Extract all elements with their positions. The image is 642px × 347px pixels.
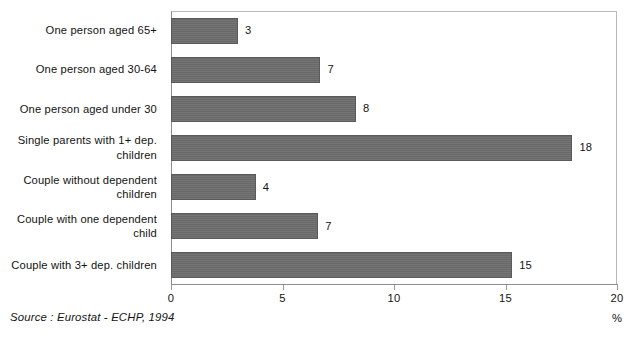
bar-value-label: 8: [363, 103, 369, 114]
category-label-one-person-aged-30-64: One person aged 30-64: [0, 50, 164, 89]
bar-row: 4: [171, 168, 617, 207]
bar-chart: One person aged 65+ One person aged 30-6…: [0, 0, 642, 347]
x-axis-tick: [394, 285, 395, 290]
x-axis-tick: [283, 285, 284, 290]
bar-one-person-aged-65-plus[interactable]: [171, 18, 238, 44]
category-axis-labels: One person aged 65+ One person aged 30-6…: [0, 11, 164, 285]
bar-one-person-aged-under-30[interactable]: [171, 96, 356, 122]
bar-row: 7: [171, 50, 617, 89]
x-axis-tick: [171, 285, 172, 290]
bar-row: 18: [171, 128, 617, 167]
bar-single-parents[interactable]: [171, 135, 572, 161]
bar-couple-with-3-plus-dep-children[interactable]: [171, 252, 512, 278]
category-label-single-parents: Single parents with 1+ dep. children: [0, 128, 164, 167]
bar-one-person-aged-30-64[interactable]: [171, 57, 320, 83]
bar-value-label: 18: [579, 142, 592, 153]
x-axis-tick-label: 0: [168, 292, 174, 304]
category-label-couple-with-3-plus-dep-children: Couple with 3+ dep. children: [0, 246, 164, 285]
category-label-one-person-aged-65-plus: One person aged 65+: [0, 11, 164, 50]
category-label-couple-without-dependent-children: Couple without dependent children: [0, 168, 164, 207]
x-axis-tick-label: 5: [279, 292, 285, 304]
x-axis-tick-label: 15: [499, 292, 512, 304]
plot-area: 3 7 8 18 4 7 15: [171, 11, 617, 285]
bar-value-label: 4: [263, 182, 269, 193]
bar-value-label: 7: [327, 64, 333, 75]
bar-row: 8: [171, 89, 617, 128]
category-label-couple-with-one-dependent-child: Couple with one dependent child: [0, 207, 164, 246]
bar-couple-with-one-dependent-child[interactable]: [171, 213, 318, 239]
bar-row: 3: [171, 11, 617, 50]
x-axis-tick: [617, 285, 618, 290]
bar-value-label: 15: [519, 260, 532, 271]
x-axis-tick-label: 10: [388, 292, 401, 304]
bar-value-label: 7: [325, 221, 331, 232]
bar-row: 7: [171, 207, 617, 246]
bar-couple-without-dependent-children[interactable]: [171, 174, 256, 200]
x-axis-tick: [506, 285, 507, 290]
x-axis-unit-label: %: [612, 312, 622, 324]
x-axis-tick-label: 20: [611, 292, 624, 304]
bar-row: 15: [171, 246, 617, 285]
bar-value-label: 3: [245, 25, 251, 36]
category-label-one-person-aged-under-30: One person aged under 30: [0, 89, 164, 128]
source-note: Source : Eurostat - ECHP, 1994: [10, 311, 174, 323]
